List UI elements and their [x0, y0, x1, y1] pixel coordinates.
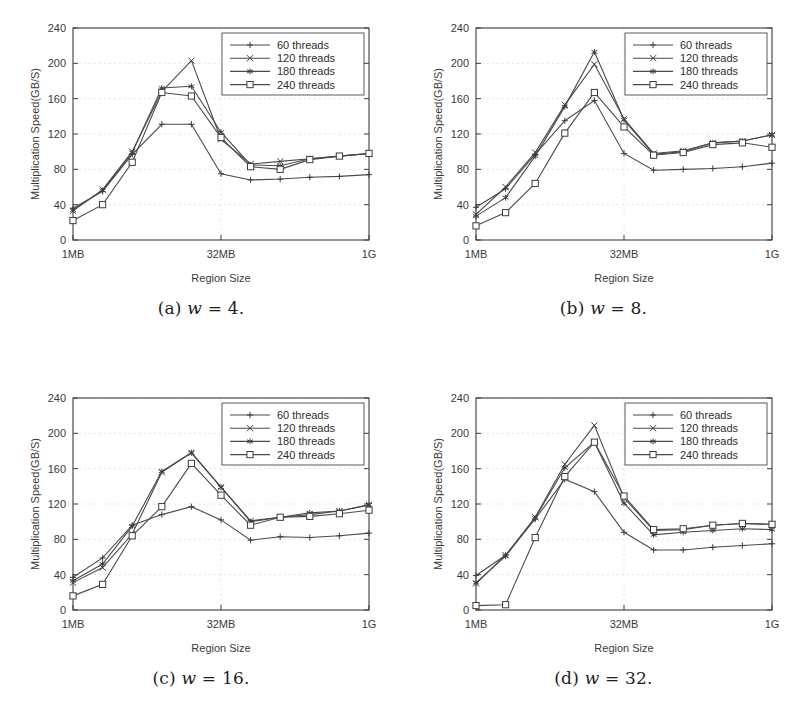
marker-plus: [739, 164, 745, 170]
marker-square: [247, 82, 253, 88]
marker-square: [366, 150, 372, 156]
marker-square: [188, 460, 194, 466]
y-tick-label: 0: [60, 234, 66, 246]
marker-square: [561, 130, 567, 136]
y-axis-title: Multiplication Speed(GB/S): [432, 438, 444, 570]
y-tick-label: 160: [450, 463, 468, 475]
legend: 60 threads120 threads180 threads240 thre…: [625, 403, 767, 465]
y-tick-label: 200: [450, 427, 468, 439]
marker-square: [70, 217, 76, 223]
legend-label: 60 threads: [680, 409, 732, 421]
x-tick-label: 1MB: [62, 618, 85, 630]
marker-plus: [709, 544, 715, 550]
legend-label: 240 threads: [680, 449, 739, 461]
legend-label: 60 threads: [277, 409, 329, 421]
marker-square: [620, 493, 626, 499]
x-tick-label: 1MB: [62, 248, 85, 260]
marker-square: [247, 452, 253, 458]
y-tick-label: 160: [48, 463, 66, 475]
marker-plus: [709, 165, 715, 171]
chart-c-svg: 040801201602002401MB32MB1GRegion SizeMul…: [21, 374, 381, 674]
marker-square: [218, 134, 224, 140]
subfigure-c: 040801201602002401MB32MB1GRegion SizeMul…: [0, 370, 402, 719]
marker-plus: [277, 176, 283, 182]
y-tick-label: 0: [462, 234, 468, 246]
legend-label: 120 threads: [277, 52, 336, 64]
y-tick-label: 160: [450, 93, 468, 105]
marker-square: [561, 474, 567, 480]
marker-square: [159, 89, 165, 95]
marker-square: [591, 439, 597, 445]
x-tick-label: 32MB: [609, 618, 638, 630]
marker-square: [336, 511, 342, 517]
legend-label: 240 threads: [277, 79, 336, 91]
chart-c: 040801201602002401MB32MB1GRegion SizeMul…: [21, 374, 381, 674]
legend-label: 60 threads: [680, 39, 732, 51]
x-tick-label: 1MB: [464, 618, 487, 630]
marker-square: [159, 504, 165, 510]
marker-plus: [768, 160, 774, 166]
marker-square: [366, 507, 372, 513]
chart-b: 040801201602002401MB32MB1GRegion SizeMul…: [424, 4, 784, 304]
legend-label: 120 threads: [680, 422, 739, 434]
marker-square: [680, 149, 686, 155]
marker-square: [739, 520, 745, 526]
y-tick-label: 40: [456, 569, 468, 581]
marker-square: [248, 164, 254, 170]
marker-plus: [307, 174, 313, 180]
y-tick-label: 200: [450, 57, 468, 69]
y-tick-label: 200: [48, 57, 66, 69]
y-tick-label: 120: [450, 498, 468, 510]
marker-plus: [768, 541, 774, 547]
x-tick-label: 32MB: [207, 618, 236, 630]
subfigure-b: 040801201602002401MB32MB1GRegion SizeMul…: [402, 0, 805, 370]
marker-plus: [336, 173, 342, 179]
chart-b-svg: 040801201602002401MB32MB1GRegion SizeMul…: [424, 4, 784, 304]
marker-square: [502, 210, 508, 216]
marker-plus: [188, 121, 194, 127]
x-axis-title: Region Size: [191, 272, 250, 284]
marker-square: [472, 223, 478, 229]
marker-plus: [366, 172, 372, 178]
marker-plus: [472, 572, 478, 578]
y-tick-label: 80: [54, 163, 66, 175]
legend-label: 180 threads: [277, 65, 336, 77]
legend-label: 120 threads: [680, 52, 739, 64]
marker-square: [649, 452, 655, 458]
marker-square: [650, 527, 656, 533]
chart-a-svg: 040801201602002401MB32MB1GRegion SizeMul…: [21, 4, 381, 304]
legend-label: 240 threads: [277, 449, 336, 461]
marker-square: [129, 159, 135, 165]
marker-square: [307, 157, 313, 163]
marker-plus: [248, 537, 254, 543]
marker-square: [336, 153, 342, 159]
y-tick-label: 80: [456, 163, 468, 175]
y-tick-label: 240: [450, 392, 468, 404]
y-tick-label: 0: [60, 604, 66, 616]
x-tick-label: 1G: [362, 248, 377, 260]
legend-label: 240 threads: [680, 79, 739, 91]
marker-square: [650, 152, 656, 158]
marker-square: [188, 93, 194, 99]
y-tick-label: 120: [48, 128, 66, 140]
marker-square: [709, 142, 715, 148]
marker-square: [70, 593, 76, 599]
y-axis-title: Multiplication Speed(GB/S): [29, 438, 41, 570]
legend-label: 180 threads: [680, 65, 739, 77]
marker-square: [620, 124, 626, 130]
y-tick-label: 240: [48, 22, 66, 34]
legend-label: 180 threads: [277, 435, 336, 447]
y-tick-label: 0: [462, 604, 468, 616]
x-tick-label: 32MB: [609, 248, 638, 260]
marker-cross: [591, 61, 597, 67]
series-60-threads: [472, 476, 774, 578]
series-line: [73, 92, 369, 220]
x-tick-label: 1MB: [464, 248, 487, 260]
y-tick-label: 200: [48, 427, 66, 439]
marker-plus: [650, 167, 656, 173]
marker-square: [218, 492, 224, 498]
legend-label: 120 threads: [277, 422, 336, 434]
marker-cross: [188, 58, 194, 64]
subfigure-d: 040801201602002401MB32MB1GRegion SizeMul…: [402, 370, 805, 719]
marker-square: [277, 166, 283, 172]
